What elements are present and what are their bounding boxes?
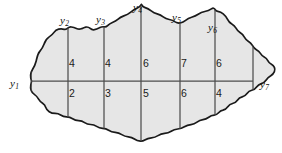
ordinate-subscript: 4: [138, 6, 142, 15]
ordinate-subscript: 5: [177, 16, 181, 25]
upper-offset-value-5: 6: [212, 58, 226, 69]
lower-offset-value-4: 6: [177, 88, 191, 99]
ordinate-label-y3: y3: [96, 14, 105, 25]
upper-offset-value-4: 7: [177, 58, 191, 69]
ordinate-subscript: 2: [65, 19, 69, 28]
ordinate-label-y2: y2: [60, 15, 69, 26]
ordinate-label-y1: y1: [10, 78, 19, 89]
ordinate-subscript: 3: [101, 18, 105, 27]
lower-offset-value-2: 3: [101, 88, 115, 99]
upper-offset-value-1: 4: [65, 58, 79, 69]
lower-offset-value-1: 2: [65, 88, 79, 99]
ordinate-subscript: 6: [213, 26, 217, 35]
ordinate-label-y5: y5: [172, 12, 181, 23]
diagram-canvas: [0, 0, 282, 153]
lower-offset-value-3: 5: [139, 88, 153, 99]
irregular-area-diagram: y1y2y3y4y5y6y7 44676 23564: [0, 0, 282, 153]
ordinate-subscript: 7: [265, 83, 269, 92]
ordinate-label-y4: y4: [133, 2, 142, 13]
upper-offset-value-3: 6: [139, 58, 153, 69]
ordinate-label-y6: y6: [208, 22, 217, 33]
lower-offset-value-5: 4: [212, 88, 226, 99]
ordinate-label-y7: y7: [260, 79, 269, 90]
upper-offset-value-2: 4: [101, 58, 115, 69]
ordinate-subscript: 1: [15, 82, 19, 91]
